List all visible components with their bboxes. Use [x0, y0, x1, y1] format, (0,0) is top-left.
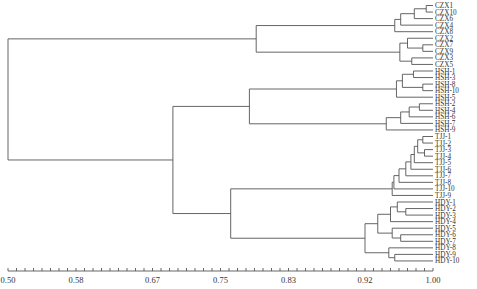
dendrogram: CZX1CZX10CZX6CZX4CZX8CZX2CZX7CZX9CZX3CZX… [0, 0, 477, 289]
dendrogram-branch [418, 140, 425, 153]
dendrogram-branch [406, 209, 433, 216]
dendrogram-branch [412, 58, 433, 65]
dendrogram-branch [423, 84, 433, 91]
axis-tick-label: 0.92 [358, 275, 373, 285]
dendrogram-branch [408, 38, 434, 48]
dendrogram-branch [423, 137, 433, 144]
dendrogram-branch [392, 228, 433, 238]
dendrogram-branch [409, 107, 433, 117]
similarity-axis: 0.500.580.670.750.830.921.00 [1, 268, 441, 285]
dendrogram-branch [401, 112, 433, 123]
dendrogram-branch [396, 81, 433, 97]
axis-tick-label: 0.75 [213, 275, 228, 285]
dendrogram-branch [419, 104, 433, 111]
leaf-labels: CZX1CZX10CZX6CZX4CZX8CZX2CZX7CZX9CZX3CZX… [435, 2, 460, 265]
dendrogram-branch [378, 214, 392, 233]
dendrogram-branch [395, 254, 433, 261]
dendrogram-branch [389, 248, 433, 258]
dendrogram-branch [414, 9, 433, 19]
axis-tick-label: 0.67 [145, 275, 160, 285]
dendrogram-branch [425, 150, 434, 157]
axis-tick-label: 0.50 [1, 275, 16, 285]
axis-tick-label: 0.58 [69, 275, 84, 285]
dendrogram-branch [397, 202, 433, 212]
dendrogram-branches [8, 6, 433, 261]
axis-tick-label: 0.83 [281, 275, 296, 285]
dendrogram-branch [231, 189, 393, 238]
leaf-label: HDY-10 [435, 257, 460, 265]
dendrogram-branch [414, 146, 433, 162]
dendrogram-branch [401, 235, 433, 242]
dendrogram-branch [249, 89, 396, 124]
dendrogram-branch [365, 224, 389, 253]
dendrogram-branch [401, 14, 433, 25]
dendrogram-branch [413, 71, 433, 78]
dendrogram-branch [423, 45, 433, 52]
dendrogram-branch [256, 26, 400, 53]
axis-tick-label: 1.00 [426, 275, 441, 285]
dendrogram-branch [400, 43, 412, 61]
dendrogram-branch [402, 74, 422, 87]
dendrogram-branch [426, 6, 433, 13]
dendrogram-branch [173, 106, 250, 213]
dendrogram-branch [8, 39, 256, 160]
